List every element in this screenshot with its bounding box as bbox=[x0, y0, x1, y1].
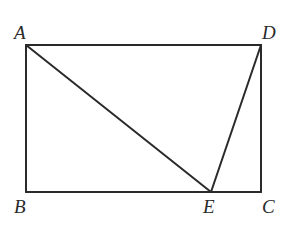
geometry-diagram: A D B E C bbox=[0, 0, 294, 225]
segment-de bbox=[211, 45, 261, 192]
label-d: D bbox=[261, 22, 276, 43]
label-b: B bbox=[14, 196, 26, 217]
label-e: E bbox=[202, 196, 215, 217]
label-c: C bbox=[262, 196, 275, 217]
segment-ae bbox=[26, 45, 211, 192]
label-a: A bbox=[12, 22, 26, 43]
